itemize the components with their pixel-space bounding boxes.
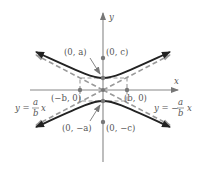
vertex-bottom-label: (0, −a) — [62, 123, 92, 133]
vertex-top-label: (0, a) — [64, 47, 87, 57]
svg-text:a: a — [33, 97, 38, 107]
co-vertex-left-label: (−b, 0) — [51, 93, 81, 103]
origin-point — [101, 88, 105, 92]
axes — [30, 13, 178, 162]
svg-text:a: a — [178, 97, 183, 107]
focus-bottom-point — [101, 120, 105, 124]
focus-bottom-label: (0, −c) — [106, 123, 135, 133]
svg-text:x: x — [41, 103, 46, 113]
x-axis-label: x — [174, 76, 179, 86]
co-vertex-right-point — [125, 88, 129, 92]
asymptote-positive-slope — [103, 55, 170, 90]
focus-top-label: (0, c) — [106, 47, 128, 57]
svg-text:y = −: y = − — [153, 103, 178, 113]
focus-top-point — [101, 56, 105, 60]
asymptote-right-equation: y = − a b x — [153, 97, 192, 118]
svg-text:y =: y = — [14, 103, 30, 113]
co-vertex-right-label: (b, 0) — [124, 93, 147, 103]
vertex-bottom-point — [101, 99, 105, 103]
co-vertex-left-point — [78, 88, 82, 92]
svg-text:x: x — [187, 103, 192, 113]
vertex-top-point — [101, 76, 105, 80]
y-axis-label: y — [108, 12, 114, 22]
asymptote-left-equation: y = a b x — [14, 97, 46, 118]
svg-text:b: b — [178, 108, 183, 118]
svg-text:b: b — [33, 108, 38, 118]
asymptote-negative-slope — [36, 55, 103, 90]
hyperbola-diagram: y x (0, a) (0, c) (−b, 0) (b, 0) (0, −a)… — [0, 0, 198, 169]
